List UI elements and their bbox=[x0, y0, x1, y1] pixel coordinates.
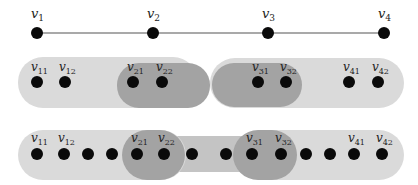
node-dot bbox=[147, 27, 159, 39]
node-u2 bbox=[106, 148, 118, 160]
node-dot bbox=[372, 76, 384, 88]
node-dot bbox=[324, 148, 336, 160]
node-v2: v2 bbox=[147, 6, 160, 39]
node-u3 bbox=[186, 148, 198, 160]
node-dot bbox=[131, 148, 143, 160]
node-dot bbox=[186, 148, 198, 160]
node-v4: v4 bbox=[378, 6, 391, 39]
node-dot bbox=[275, 148, 287, 160]
node-label: v1 bbox=[31, 6, 44, 23]
node-u6 bbox=[324, 148, 336, 160]
node-dot bbox=[82, 148, 94, 160]
row1-nodes: v1v2v3v4 bbox=[31, 6, 391, 39]
node-dot bbox=[58, 148, 70, 160]
node-label: v4 bbox=[378, 6, 391, 23]
node-v1: v1 bbox=[31, 6, 44, 39]
node-dot bbox=[220, 148, 232, 160]
node-dot bbox=[343, 76, 355, 88]
row3-regions bbox=[18, 130, 404, 180]
node-dot bbox=[156, 76, 168, 88]
node-label: v2 bbox=[147, 6, 160, 23]
node-dot bbox=[348, 148, 360, 160]
node-dot bbox=[127, 76, 139, 88]
node-u1 bbox=[82, 148, 94, 160]
node-dot bbox=[106, 148, 118, 160]
node-dot bbox=[262, 27, 274, 39]
node-dot bbox=[378, 27, 390, 39]
node-u5 bbox=[300, 148, 312, 160]
node-dot bbox=[59, 76, 71, 88]
node-dot bbox=[376, 148, 388, 160]
node-dot bbox=[246, 148, 258, 160]
node-dot bbox=[300, 148, 312, 160]
node-label: v3 bbox=[262, 6, 275, 23]
node-v3: v3 bbox=[262, 6, 275, 39]
node-dot bbox=[158, 148, 170, 160]
hypergraph-diagram: v1v2v3v4 v11v12v21v22v31v32v41v42 v11v12… bbox=[0, 0, 418, 185]
node-dot bbox=[31, 27, 43, 39]
node-u4 bbox=[220, 148, 232, 160]
node-dot bbox=[252, 76, 264, 88]
node-dot bbox=[31, 148, 43, 160]
node-dot bbox=[31, 76, 43, 88]
node-dot bbox=[280, 76, 292, 88]
